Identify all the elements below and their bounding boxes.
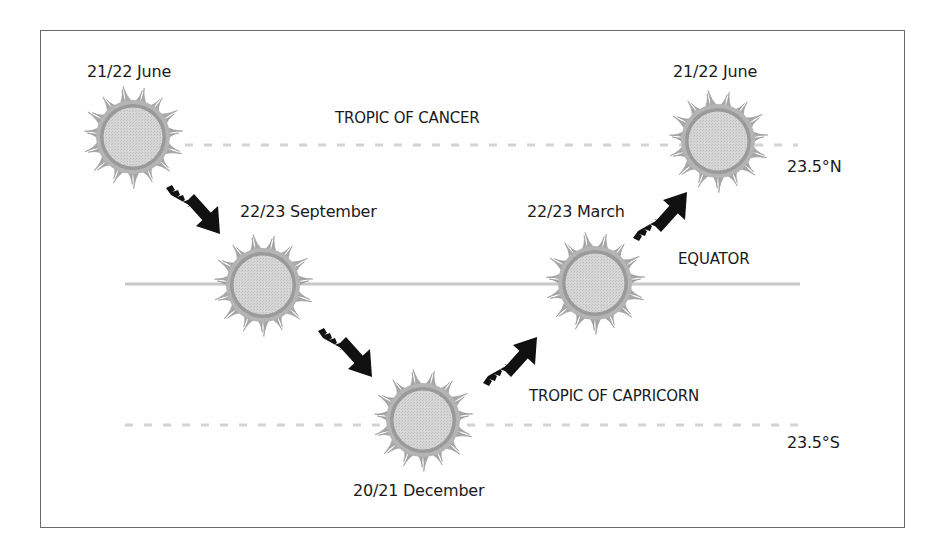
tropic-of-capricorn-latitude: 23.5°S <box>787 433 840 452</box>
sun-date-label: 21/22 June <box>673 62 757 81</box>
sun-icon <box>547 232 645 334</box>
diagram-graphics <box>0 0 947 559</box>
sun-date-label: 22/23 September <box>240 202 377 221</box>
arrow-icon <box>483 337 537 386</box>
equator-label: EQUATOR <box>678 250 749 268</box>
sun-icon <box>670 90 768 192</box>
diagram-canvas: 21/22 June 22/23 September 20/21 Decembe… <box>0 0 947 559</box>
tropic-of-cancer-label: TROPIC OF CANCER <box>335 109 479 127</box>
arrow-icon <box>318 328 372 377</box>
sun-date-label: 20/21 December <box>353 481 484 500</box>
tropic-of-capricorn-label: TROPIC OF CAPRICORN <box>529 387 699 405</box>
sun-icon <box>375 369 473 471</box>
arrow-icon <box>633 192 687 241</box>
sun-icon <box>85 86 183 188</box>
sun-icon <box>215 234 313 336</box>
sun-date-label: 22/23 March <box>527 202 625 221</box>
arrow-icon <box>166 185 220 234</box>
tropic-of-cancer-latitude: 23.5°N <box>787 157 841 176</box>
sun-date-label: 21/22 June <box>87 62 171 81</box>
